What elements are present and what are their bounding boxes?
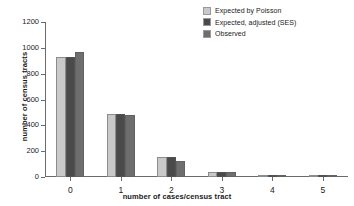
legend-swatch-icon — [203, 7, 211, 15]
y-axis-tick-label: 1200 — [9, 18, 39, 26]
legend-item-expected-by-poisson: Expected by Poisson — [203, 6, 296, 15]
bar — [167, 157, 176, 177]
bar — [157, 157, 166, 177]
x-axis-tick — [121, 177, 122, 181]
bar-chart: Expected by Poisson Expected, adjusted (… — [0, 0, 354, 206]
bar — [75, 52, 84, 177]
legend-label: Expected by Poisson — [215, 6, 281, 15]
x-axis-tick — [222, 177, 223, 181]
y-axis-tick-label: 200 — [9, 147, 39, 155]
bar — [66, 57, 75, 177]
y-axis-tick — [41, 74, 45, 75]
y-axis-tick — [41, 100, 45, 101]
x-axis-tick — [171, 177, 172, 181]
y-axis-tick — [41, 151, 45, 152]
y-axis-tick-label: 400 — [9, 121, 39, 129]
y-axis-tick — [41, 177, 45, 178]
y-axis-tick-label: 0 — [9, 173, 39, 181]
y-axis-tick-label: 1000 — [9, 44, 39, 52]
x-axis-title: number of cases/census tract — [0, 192, 354, 201]
bar — [125, 115, 134, 177]
bar — [226, 172, 235, 177]
bar — [56, 57, 65, 177]
bar — [268, 175, 277, 177]
x-axis-line — [45, 176, 348, 177]
x-axis-tick — [272, 177, 273, 181]
bar — [107, 114, 116, 177]
bar — [258, 175, 267, 177]
y-axis-line — [45, 22, 46, 177]
y-axis-tick — [41, 22, 45, 23]
y-axis-tick-label: 800 — [9, 70, 39, 78]
x-axis-tick — [70, 177, 71, 181]
bar — [116, 114, 125, 177]
y-axis-tick — [41, 48, 45, 49]
y-axis-tick — [41, 125, 45, 126]
bar — [318, 175, 327, 177]
x-axis-tick — [323, 177, 324, 181]
bar — [309, 175, 318, 177]
bar — [208, 172, 217, 177]
bar — [277, 175, 286, 177]
bar — [217, 172, 226, 177]
bar — [327, 175, 336, 177]
bar — [176, 161, 185, 177]
plot-area: 020040060080010001200012345 — [45, 22, 348, 177]
y-axis-tick-label: 600 — [9, 96, 39, 104]
